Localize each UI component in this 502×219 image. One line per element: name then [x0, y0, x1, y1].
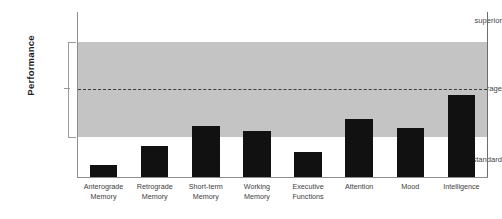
performance-bar-chart: Performance superior average substandard…: [0, 0, 502, 219]
bar-working-memory: [243, 131, 271, 177]
bar-anterograde-memory: [90, 165, 118, 177]
bars-layer: [78, 12, 487, 177]
bar-short-term-memory: [192, 126, 220, 177]
x-axis-labels: AnterogradeMemoryRetrogradeMemoryShort-t…: [78, 182, 487, 216]
x-tick-label-line: Working: [231, 182, 282, 192]
average-range-bracket: [68, 42, 76, 138]
bar-mood: [397, 128, 425, 178]
x-tick-label-line: Memory: [180, 192, 231, 202]
x-tick-label-line: Memory: [231, 192, 282, 202]
y-axis-title: Performance: [25, 6, 36, 126]
x-tick-label-line: Attention: [334, 182, 385, 192]
x-tick-label-line: Memory: [129, 192, 180, 202]
bar-executive-functions: [294, 152, 322, 177]
x-tick-label-line: Anterograde: [78, 182, 129, 192]
x-tick-label-retrograde-memory: RetrogradeMemory: [129, 182, 180, 201]
bar-retrograde-memory: [141, 146, 169, 177]
x-tick-label-line: Memory: [78, 192, 129, 202]
x-tick-label-line: Retrograde: [129, 182, 180, 192]
right-axis-line: [487, 12, 488, 178]
bar-attention: [345, 119, 373, 177]
x-axis-line: [77, 177, 488, 178]
x-tick-label-working-memory: WorkingMemory: [231, 182, 282, 201]
x-tick-label-executive-functions: ExecutiveFunctions: [283, 182, 334, 201]
x-tick-label-line: Intelligence: [436, 182, 487, 192]
x-tick-label-anterograde-memory: AnterogradeMemory: [78, 182, 129, 201]
x-tick-label-line: Short-term: [180, 182, 231, 192]
x-tick-label-line: Functions: [283, 192, 334, 202]
average-range-bracket-tick: [64, 88, 70, 89]
bar-intelligence: [448, 95, 476, 178]
x-tick-label-intelligence: Intelligence: [436, 182, 487, 192]
x-tick-label-short-term-memory: Short-termMemory: [180, 182, 231, 201]
x-tick-label-line: Mood: [385, 182, 436, 192]
x-tick-label-line: Executive: [283, 182, 334, 192]
x-tick-label-attention: Attention: [334, 182, 385, 192]
x-tick-label-mood: Mood: [385, 182, 436, 192]
